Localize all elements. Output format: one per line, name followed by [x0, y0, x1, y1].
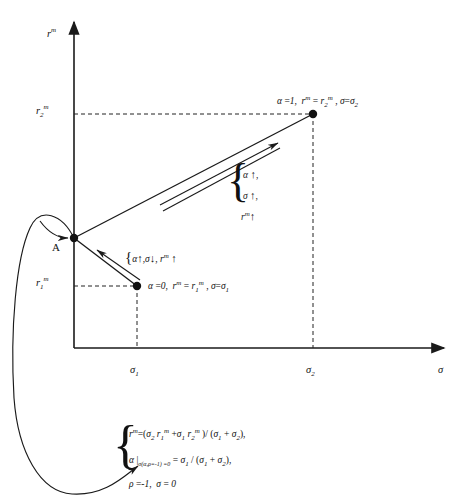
- x-tick-label-sigma2: σ2: [306, 364, 315, 379]
- upper-brace-line-1: α ↑,: [243, 168, 258, 180]
- y-axis-label: rm: [47, 27, 56, 39]
- y-tick-label-r1: r1m: [36, 276, 49, 291]
- frontier-upper-segment: [74, 114, 313, 238]
- formula-line-3: ρ =-1, σ = 0: [129, 479, 176, 489]
- y-tick-label-r2: r2m: [36, 104, 49, 119]
- formula-line-2: α |σ(α,ρ=-1) =0 = σ1 / (σ1 + σ2),: [129, 455, 231, 469]
- direction-arrow-upper: [160, 143, 278, 205]
- x-tick-label-sigma1: σ1: [130, 364, 139, 379]
- point-alpha-1-label: α =1, rm = r2m , σ=σ2: [277, 95, 358, 110]
- formula-line-1: rm=(σ2 r1m +σ1 r2m )/ (σ1 + σ2),: [129, 428, 245, 443]
- lower-brace-glyph: {: [125, 249, 132, 265]
- figure-canvas: rm σ r2m r1m σ1 σ2 A α =1, rm = r2m , σ=…: [0, 0, 462, 504]
- point-a-label: A: [52, 241, 60, 253]
- point-a-marker: [70, 234, 78, 242]
- lower-inline-annotation: {α↑,σ↓, rm ↑: [125, 250, 177, 265]
- point-alpha-0-label: α =0, rm = r1m , σ=σ1: [148, 280, 229, 295]
- point-alpha-0-marker: [133, 282, 141, 290]
- upper-brace-line-3: rm↑: [241, 210, 255, 222]
- upper-brace-line-2: σ ↑,: [243, 189, 258, 201]
- direction-arrow-upper-second: [163, 148, 280, 211]
- x-axis-label: σ: [438, 364, 443, 376]
- point-alpha-1-marker: [309, 110, 317, 118]
